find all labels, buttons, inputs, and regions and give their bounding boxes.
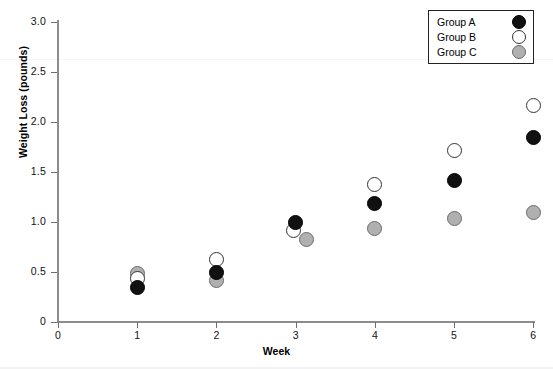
legend-item-group-c[interactable]: Group C (429, 44, 533, 59)
y-tick (51, 22, 57, 23)
y-tick (51, 172, 57, 173)
scatter-chart: 00.51.01.52.02.53.0 0123456 Weight Loss … (0, 0, 553, 369)
x-tick (58, 322, 59, 328)
y-tick-label: 0.5 (0, 266, 46, 277)
x-tick-label: 1 (125, 330, 149, 341)
legend-item-group-b[interactable]: Group B (429, 29, 533, 44)
x-tick (296, 322, 297, 328)
y-tick (51, 72, 57, 73)
y-tick-label: 1.0 (0, 216, 46, 227)
data-point-group-a-week-3 (288, 215, 303, 230)
data-point-group-b-week-6 (526, 98, 541, 113)
data-point-group-a-week-6 (526, 130, 541, 145)
x-tick-label: 4 (363, 330, 387, 341)
y-tick (51, 322, 57, 323)
x-tick-label: 3 (284, 330, 308, 341)
y-tick (51, 272, 57, 273)
data-point-group-a-week-4 (367, 196, 382, 211)
legend-swatch-filled-circle-gray-icon (512, 45, 526, 59)
y-axis-title: Weight Loss (pounds) (17, 17, 29, 187)
data-point-group-c-week-6 (526, 205, 541, 220)
x-tick (454, 322, 455, 328)
y-tick (51, 122, 57, 123)
x-tick (375, 322, 376, 328)
legend-item-group-a[interactable]: Group A (429, 14, 533, 29)
data-point-group-b-week-4 (367, 177, 382, 192)
data-point-group-a-week-5 (447, 173, 462, 188)
legend-label: Group B (437, 31, 476, 43)
x-tick-label: 5 (442, 330, 466, 341)
data-point-group-c-week-4 (367, 221, 382, 236)
x-tick-label: 0 (46, 330, 70, 341)
x-tick-label: 6 (521, 330, 545, 341)
x-tick-label: 2 (204, 330, 228, 341)
data-point-group-c-week-5 (447, 211, 462, 226)
x-tick (533, 322, 534, 328)
y-tick (51, 222, 57, 223)
legend-swatch-open-circle-white-icon (512, 30, 526, 44)
x-tick (216, 322, 217, 328)
legend: Group AGroup BGroup C (428, 10, 534, 64)
legend-label: Group C (437, 46, 477, 58)
y-tick-label: 0 (0, 316, 46, 327)
legend-swatch-filled-circle-black-icon (512, 15, 526, 29)
legend-label: Group A (437, 16, 476, 28)
data-point-group-a-week-2 (209, 265, 224, 280)
x-axis-title: Week (0, 345, 553, 357)
data-point-group-b-week-5 (447, 143, 462, 158)
data-point-group-a-week-1 (130, 280, 145, 295)
data-point-group-c-week-3 (299, 232, 314, 247)
x-tick (137, 322, 138, 328)
